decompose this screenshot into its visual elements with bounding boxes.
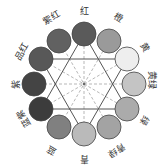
center-dot [83, 83, 85, 85]
color-wheel: 红橙黄黄绿绿青绿青蓝蓝紫紫品红紫红 [0, 0, 166, 168]
hue-circle [22, 72, 46, 96]
hue-label: 黄绿 [147, 71, 158, 89]
hue-label: 蓝 [45, 144, 58, 158]
hue-label: 红 [80, 5, 89, 16]
hue-label: 橙 [112, 10, 125, 24]
hue-circle [47, 29, 71, 53]
hue-label: 绿 [138, 114, 152, 127]
hue-circle [29, 97, 53, 121]
hue-circle [115, 97, 139, 121]
hue-circle [115, 47, 139, 71]
hue-circle [122, 72, 146, 96]
hue-circle [29, 47, 53, 71]
hue-circle [72, 122, 96, 146]
hue-label: 青绿 [106, 142, 127, 161]
hue-label: 青 [80, 154, 89, 165]
hue-circle [97, 29, 121, 53]
hue-circle [97, 115, 121, 139]
hue-circle [72, 22, 96, 46]
hue-label: 紫 [11, 80, 21, 89]
hue-label: 紫红 [41, 8, 62, 27]
hue-circle [47, 115, 71, 139]
hue-label: 品红 [12, 41, 31, 62]
hue-label: 黄 [138, 41, 152, 54]
center-dashed-spokes [46, 46, 122, 122]
